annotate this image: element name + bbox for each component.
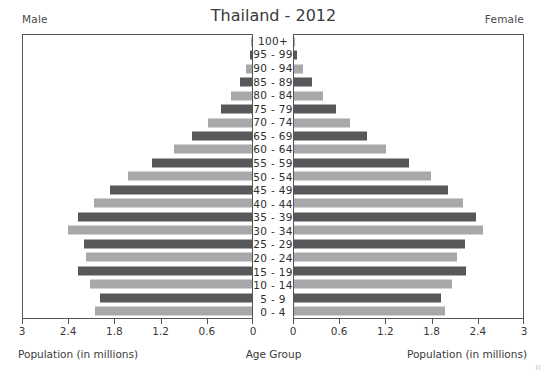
female-bar-55-59 (294, 158, 409, 167)
age-group-label: 65 - 69 (253, 129, 293, 143)
bar-row (294, 170, 523, 183)
axis-tick (114, 319, 115, 324)
age-group-label: 90 - 94 (253, 61, 293, 75)
bar-row (23, 89, 252, 102)
female-bar-10-14 (294, 280, 452, 289)
age-group-label: 10 - 14 (253, 278, 293, 292)
age-group-label: 80 - 84 (253, 88, 293, 102)
female-plot-panel (293, 34, 524, 319)
female-bar-30-34 (294, 226, 483, 235)
bar-row (294, 183, 523, 196)
age-group-label: 75 - 79 (253, 102, 293, 116)
bar-row (294, 237, 523, 250)
bar-row (294, 116, 523, 129)
axis-tick-label: 3 (521, 325, 528, 337)
axis-tick (68, 319, 69, 324)
axis-tick (432, 319, 433, 324)
axis-tick (161, 319, 162, 324)
bar-row (23, 170, 252, 183)
male-bar-rows (23, 35, 252, 318)
age-group-label: 60 - 64 (253, 143, 293, 157)
bar-row (294, 156, 523, 169)
female-bar-75-79 (294, 105, 336, 114)
female-bar-60-64 (294, 145, 386, 154)
bar-row (23, 48, 252, 61)
male-bar-60-64 (174, 145, 252, 154)
female-bar-65-69 (294, 132, 367, 141)
male-bar-65-69 (192, 132, 252, 141)
male-bar-40-44 (94, 199, 252, 208)
male-bar-50-54 (128, 172, 252, 181)
male-bar-25-29 (84, 239, 252, 248)
axis-tick-label: 1.2 (152, 325, 169, 337)
male-bar-5-9 (100, 293, 252, 302)
female-legend-label: Female (485, 13, 524, 25)
age-group-label: 95 - 99 (253, 48, 293, 62)
bar-row (23, 156, 252, 169)
axis-tick-label: 2.4 (60, 325, 77, 337)
male-bar-85-89 (240, 78, 252, 87)
bar-row (294, 62, 523, 75)
male-bar-95-99 (250, 51, 252, 60)
axis-tick (523, 319, 524, 324)
age-group-label: 45 - 49 (253, 183, 293, 197)
bar-row (23, 304, 252, 317)
bar-row (294, 224, 523, 237)
male-bar-45-49 (110, 185, 252, 194)
axis-tick-label: 1.2 (377, 325, 394, 337)
bar-row (294, 291, 523, 304)
bar-row (294, 304, 523, 317)
axis-tick-label: 0 (250, 325, 257, 337)
male-x-axis: 32.41.81.20.60 (22, 319, 253, 337)
male-bar-100+ (251, 37, 252, 46)
female-bar-95-99 (294, 51, 297, 60)
age-group-label: 100+ (253, 34, 293, 48)
bar-row (294, 75, 523, 88)
bar-row (23, 251, 252, 264)
female-bar-25-29 (294, 239, 465, 248)
female-bar-rows (294, 35, 523, 318)
bar-row (294, 48, 523, 61)
bar-row (23, 264, 252, 277)
chart-title: Thailand - 2012 (0, 6, 547, 25)
axis-tick (385, 319, 386, 324)
bar-row (23, 197, 252, 210)
bar-row (23, 291, 252, 304)
female-bar-80-84 (294, 91, 323, 100)
bar-row (294, 210, 523, 223)
age-group-label: 35 - 39 (253, 211, 293, 225)
axis-tick-label: 3 (19, 325, 26, 337)
bar-row (294, 129, 523, 142)
bar-row (294, 89, 523, 102)
female-bar-15-19 (294, 266, 466, 275)
age-group-label: 15 - 19 (253, 265, 293, 279)
female-bar-50-54 (294, 172, 431, 181)
age-group-label: 20 - 24 (253, 251, 293, 265)
female-bar-100+ (294, 37, 295, 46)
female-bar-85-89 (294, 78, 312, 87)
population-pyramid-chart: Male Thailand - 2012 Female 100+95 - 999… (0, 0, 547, 378)
age-group-label: 70 - 74 (253, 115, 293, 129)
bar-row (23, 75, 252, 88)
age-group-label: 50 - 54 (253, 170, 293, 184)
female-x-axis: 00.61.21.82.43 (293, 319, 524, 337)
bar-row (23, 62, 252, 75)
male-bar-75-79 (221, 105, 252, 114)
bar-row (294, 35, 523, 48)
male-plot-panel (22, 34, 253, 319)
axis-tick-label: 1.8 (106, 325, 123, 337)
male-bar-0-4 (95, 307, 252, 316)
female-bar-40-44 (294, 199, 463, 208)
male-bar-20-24 (86, 253, 252, 262)
axis-tick-label: 1.8 (423, 325, 440, 337)
female-bar-5-9 (294, 293, 441, 302)
axis-tick (339, 319, 340, 324)
male-bar-70-74 (208, 118, 252, 127)
axis-tick (293, 319, 294, 324)
axis-tick-label: 0 (290, 325, 297, 337)
bar-row (294, 251, 523, 264)
bar-row (23, 129, 252, 142)
bar-row (23, 35, 252, 48)
male-bar-10-14 (90, 280, 252, 289)
bar-row (23, 116, 252, 129)
